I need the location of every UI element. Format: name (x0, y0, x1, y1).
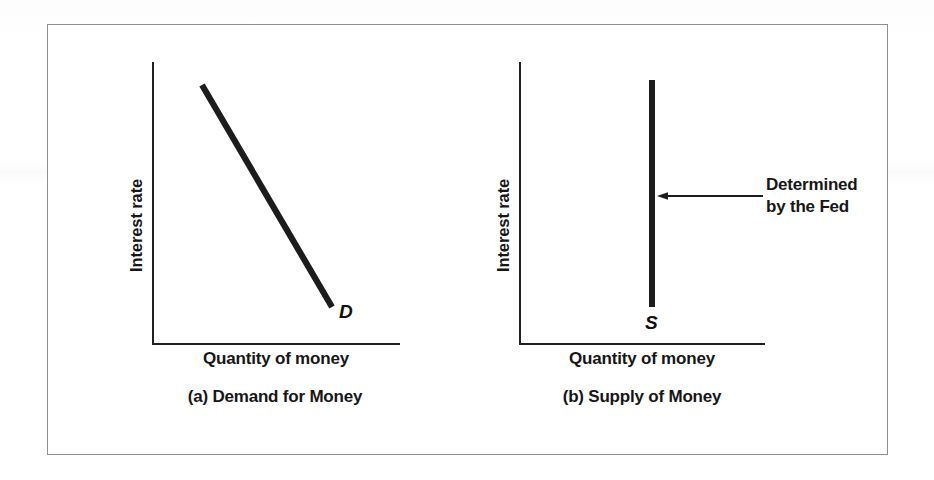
panel-demand-for-money: Interest rate D Quantity of money (a) De… (47, 24, 467, 455)
demand-curve-label: D (339, 301, 353, 323)
demand-curve-line (202, 85, 332, 307)
panel-supply-of-money: Interest rate S Determined by the Fed Qu… (467, 24, 888, 455)
figure-root: Interest rate D Quantity of money (a) De… (0, 0, 934, 480)
supply-annotation-line-1: Determined (766, 174, 858, 196)
demand-panel-caption: (a) Demand for Money (95, 387, 455, 407)
supply-panel-caption: (b) Supply of Money (462, 387, 822, 407)
demand-x-axis-label: Quantity of money (152, 349, 400, 369)
supply-x-axis-label: Quantity of money (519, 349, 765, 369)
supply-curve-label: S (645, 312, 658, 334)
supply-annotation-line-2: by the Fed (766, 196, 858, 218)
supply-annotation: Determined by the Fed (766, 174, 858, 218)
annotation-arrow-head (657, 192, 668, 200)
